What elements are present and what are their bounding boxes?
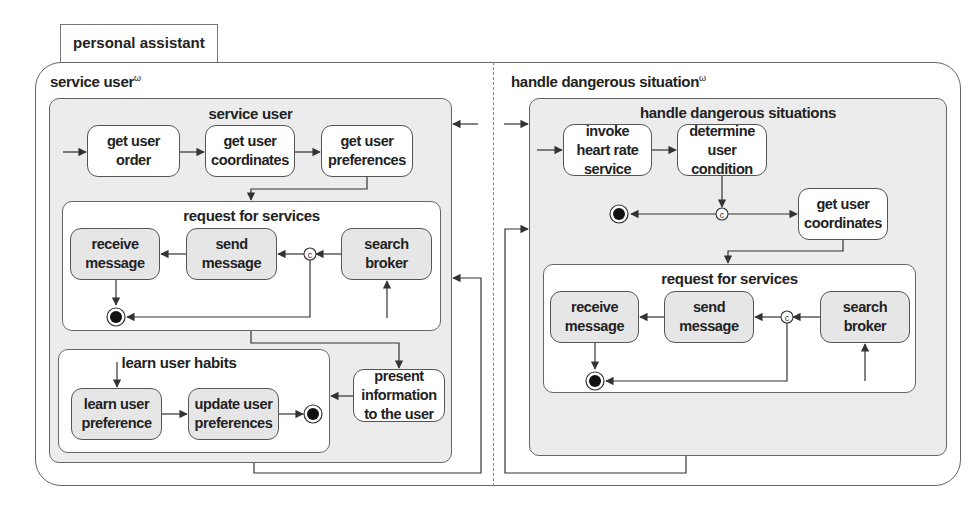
state-label: update user xyxy=(195,395,273,414)
state-get-user-coordinates-right[interactable]: get usercoordinates xyxy=(798,188,888,240)
state-label: coordinates xyxy=(804,214,882,233)
state-label: learn user xyxy=(81,395,151,414)
region-label-service-user: service userω xyxy=(50,73,141,90)
state-label: condition xyxy=(689,160,755,179)
state-determine-user-condition[interactable]: determineusercondition xyxy=(677,124,767,176)
state-receive-message-right[interactable]: receivemessage xyxy=(550,291,639,343)
container-title: learn user habits xyxy=(29,354,329,371)
state-label: get user xyxy=(107,132,160,151)
state-get-user-preferences[interactable]: get userpreferences xyxy=(321,125,413,177)
state-label: search xyxy=(364,235,408,254)
container-title: request for services xyxy=(63,207,440,224)
state-label: determine xyxy=(689,122,755,141)
state-learn-user-preference[interactable]: learn userpreference xyxy=(71,388,162,440)
state-search-broker-right[interactable]: searchbroker xyxy=(820,291,910,343)
state-label: broker xyxy=(364,254,408,273)
concurrent-region-divider xyxy=(493,62,494,486)
container-title: handle dangerous situations xyxy=(530,104,946,121)
state-send-message-right[interactable]: sendmessage xyxy=(664,291,754,343)
state-label: send xyxy=(202,235,261,254)
state-label: present xyxy=(361,367,436,386)
omega-superscript: ω xyxy=(134,73,141,83)
state-get-user-coordinates[interactable]: get usercoordinates xyxy=(205,125,295,177)
state-label: preference xyxy=(81,414,151,433)
state-label: message xyxy=(202,254,261,273)
diagram-tab-label: personal assistant xyxy=(60,24,218,64)
region-label-text: handle dangerous situation xyxy=(511,73,699,90)
state-label: send xyxy=(679,298,738,317)
state-label: to the user xyxy=(361,405,436,424)
state-label: search xyxy=(843,298,887,317)
state-label: invoke xyxy=(576,122,638,141)
state-label: broker xyxy=(843,317,887,336)
state-label: order xyxy=(107,151,160,170)
state-label: heart rate xyxy=(576,141,638,160)
state-label: service xyxy=(576,160,638,179)
state-label: user xyxy=(689,141,755,160)
state-label: message xyxy=(85,254,144,273)
container-title: request for services xyxy=(544,270,915,287)
state-update-user-preferences[interactable]: update userpreferences xyxy=(188,388,279,440)
container-title: service user xyxy=(50,105,451,122)
omega-superscript: ω xyxy=(699,73,706,83)
state-label: get user xyxy=(328,132,406,151)
state-label: get user xyxy=(211,132,289,151)
state-label: preferences xyxy=(195,414,273,433)
state-invoke-heart-rate-service[interactable]: invokeheart rateservice xyxy=(563,124,652,176)
state-label: preferences xyxy=(328,151,406,170)
state-label: receive xyxy=(565,298,624,317)
state-label: message xyxy=(679,317,738,336)
state-label: message xyxy=(565,317,624,336)
state-send-message[interactable]: sendmessage xyxy=(186,228,277,280)
region-label-handle-dangerous-situation: handle dangerous situationω xyxy=(511,73,706,90)
state-label: coordinates xyxy=(211,151,289,170)
state-label: get user xyxy=(804,195,882,214)
region-label-text: service user xyxy=(50,73,134,90)
state-label: information xyxy=(361,386,436,405)
state-label: receive xyxy=(85,235,144,254)
state-get-user-order[interactable]: get userorder xyxy=(87,125,180,177)
state-search-broker[interactable]: searchbroker xyxy=(341,228,432,280)
state-receive-message[interactable]: receivemessage xyxy=(70,228,160,280)
state-present-information[interactable]: presentinformationto the user xyxy=(353,369,445,422)
